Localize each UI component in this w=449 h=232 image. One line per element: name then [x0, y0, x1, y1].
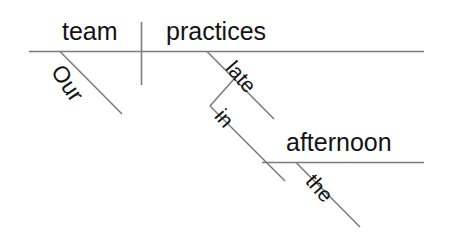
word-afternoon: afternoon: [286, 130, 392, 155]
preposition-connector: [210, 79, 234, 106]
word-practices: practices: [166, 19, 266, 44]
sentence-diagram: team practices Our late in afternoon the: [0, 0, 449, 232]
word-team: team: [62, 19, 118, 44]
